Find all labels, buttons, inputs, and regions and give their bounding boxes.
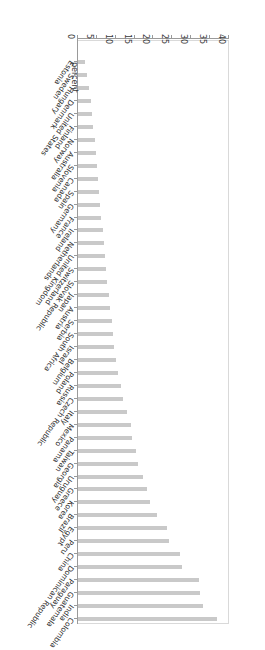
category-tick — [74, 178, 78, 179]
bar — [78, 371, 118, 375]
bar — [78, 319, 112, 323]
category-tick — [74, 359, 78, 360]
category-tick — [74, 385, 78, 386]
category-tick — [74, 87, 78, 88]
bar — [78, 423, 131, 427]
bar — [78, 539, 169, 543]
category-tick — [74, 152, 78, 153]
value-tick — [153, 35, 154, 39]
bar — [78, 578, 199, 582]
bar — [78, 526, 167, 530]
category-tick — [74, 74, 78, 75]
category-tick — [74, 592, 78, 593]
value-tick-label: 25 — [160, 34, 169, 44]
bar — [78, 513, 157, 517]
bar — [78, 410, 127, 414]
category-tick — [74, 514, 78, 515]
bar — [78, 216, 101, 220]
value-tick — [77, 35, 78, 39]
category-tick — [74, 463, 78, 464]
value-tick — [190, 35, 191, 39]
bar — [78, 604, 203, 608]
category-tick — [74, 204, 78, 205]
category-tick — [74, 424, 78, 425]
category-tick — [74, 217, 78, 218]
bar — [78, 306, 110, 310]
bar — [78, 60, 85, 64]
category-tick — [74, 320, 78, 321]
bar — [78, 254, 105, 258]
value-tick-label: 30 — [179, 34, 188, 44]
bar — [78, 397, 123, 401]
category-tick — [74, 618, 78, 619]
bar — [78, 99, 91, 103]
bar — [78, 436, 132, 440]
category-tick — [74, 268, 78, 269]
bar — [78, 384, 121, 388]
bar — [78, 345, 114, 349]
category-tick — [74, 579, 78, 580]
category-tick — [74, 553, 78, 554]
bar — [78, 462, 138, 466]
value-tick-label: 20 — [142, 34, 151, 44]
category-tick — [74, 61, 78, 62]
category-tick — [74, 450, 78, 451]
category-tick — [74, 255, 78, 256]
value-tick-label: 35 — [198, 34, 207, 44]
bar — [78, 280, 107, 284]
category-tick — [74, 540, 78, 541]
bar — [78, 138, 95, 142]
bar — [78, 203, 100, 207]
value-tick — [228, 35, 229, 39]
category-tick — [74, 372, 78, 373]
category-tick — [74, 294, 78, 295]
bar — [78, 86, 89, 90]
bar — [78, 267, 106, 271]
bar — [78, 151, 96, 155]
bar — [78, 449, 136, 453]
bar — [78, 293, 109, 297]
bar — [78, 565, 182, 569]
bar — [78, 358, 116, 362]
value-tick-label: 15 — [123, 34, 132, 44]
value-tick-label: 0 — [66, 34, 75, 39]
bar — [78, 177, 98, 181]
category-tick — [74, 476, 78, 477]
category-tick — [74, 165, 78, 166]
bar — [78, 125, 93, 129]
value-tick — [96, 35, 97, 39]
bar — [78, 552, 180, 556]
category-tick — [74, 191, 78, 192]
category-tick — [74, 566, 78, 567]
category-tick — [74, 126, 78, 127]
bar — [78, 73, 87, 77]
bar — [78, 617, 217, 621]
category-tick — [74, 346, 78, 347]
value-tick — [171, 35, 172, 39]
category-tick — [74, 307, 78, 308]
category-tick — [74, 398, 78, 399]
value-tick — [134, 35, 135, 39]
value-tick — [115, 35, 116, 39]
category-tick — [74, 242, 78, 243]
bar — [78, 488, 147, 492]
category-tick — [74, 501, 78, 502]
value-tick-label: 5 — [85, 34, 94, 39]
category-tick — [74, 100, 78, 101]
bar — [78, 500, 150, 504]
bar — [78, 229, 103, 233]
category-tick — [74, 437, 78, 438]
bar — [78, 332, 113, 336]
category-tick — [74, 281, 78, 282]
value-tick-label: 40 — [217, 34, 226, 44]
category-tick — [74, 333, 78, 334]
bar — [78, 475, 143, 479]
category-tick — [74, 139, 78, 140]
bar — [78, 164, 97, 168]
bar — [78, 112, 92, 116]
bar — [78, 241, 104, 245]
value-tick-label: 10 — [104, 34, 113, 44]
category-tick — [74, 411, 78, 412]
bar — [78, 190, 99, 194]
